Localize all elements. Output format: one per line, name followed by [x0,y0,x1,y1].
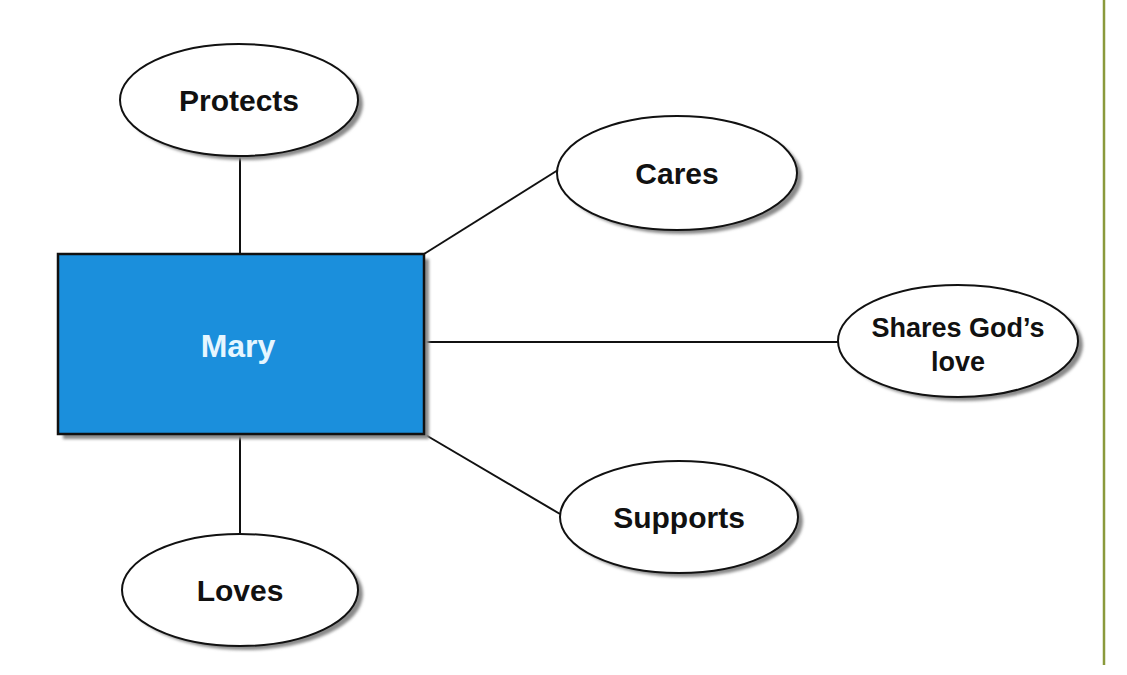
connector-cares [424,170,558,254]
node-label-cares: Cares [635,157,718,190]
node-label-shares-line1: Shares God’s [871,313,1044,343]
node-supports: Supports [560,461,803,577]
node-cares: Cares [557,116,802,234]
node-shares-gods-love: Shares God’s love [838,285,1083,401]
center-node-label: Mary [201,328,276,364]
concept-map: Mary Protects Cares Shares God’s love Su… [0,0,1127,675]
connector-supports [424,434,560,514]
node-protects: Protects [120,44,363,160]
node-label-protects: Protects [179,84,299,117]
node-label-supports: Supports [613,501,745,534]
center-node-mary: Mary [58,254,429,439]
node-label-shares-line2: love [931,347,985,377]
node-label-loves: Loves [197,574,284,607]
node-loves: Loves [122,534,363,650]
